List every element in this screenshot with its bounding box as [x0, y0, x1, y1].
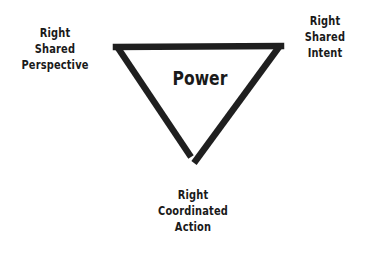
vertex-label-shared-intent: Right Shared Intent: [290, 13, 361, 61]
vertex-label-shared-perspective: Right Shared Perspective: [15, 25, 95, 73]
label-line: Right: [15, 25, 95, 41]
center-label-power: Power: [167, 66, 233, 90]
vertex-label-coordinated-action: Right Coordinated Action: [152, 187, 234, 235]
label-line: Shared: [15, 41, 95, 57]
label-line: Shared: [290, 29, 361, 45]
label-line: Perspective: [15, 57, 95, 73]
label-line: Right: [152, 187, 234, 203]
label-line: Intent: [290, 45, 361, 61]
label-line: Action: [152, 219, 234, 235]
label-line: Right: [290, 13, 361, 29]
label-line: Coordinated: [152, 203, 234, 219]
